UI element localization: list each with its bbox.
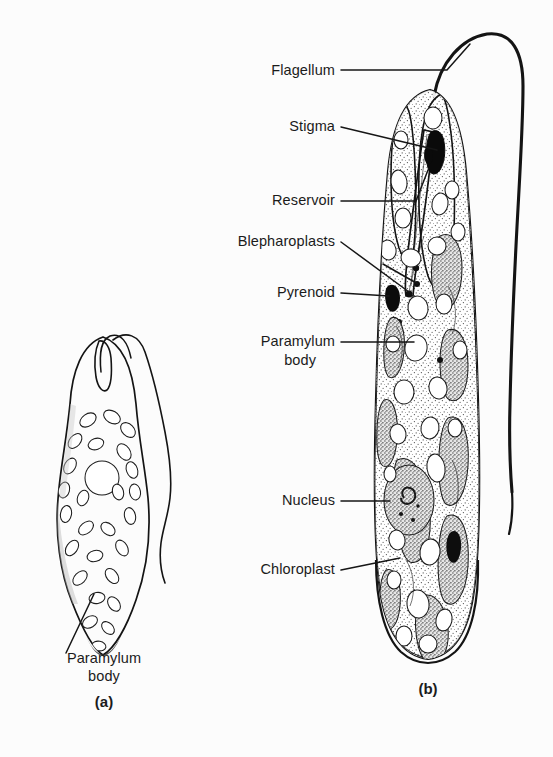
- label-stigma: Stigma: [289, 118, 336, 134]
- panel-label-b: (b): [418, 680, 437, 697]
- nuclear-granule-2: [411, 518, 415, 522]
- label-paramylum-body-a-line1: Paramylum: [67, 650, 141, 666]
- label-nucleus: Nucleus: [282, 492, 335, 508]
- label-paramylum-body-b-line1: Paramylum: [261, 333, 335, 349]
- label-pyrenoid: Pyrenoid: [277, 284, 335, 300]
- label-chloroplast: Chloroplast: [261, 561, 335, 577]
- label-reservoir: Reservoir: [272, 192, 335, 208]
- label-blepharoplasts: Blepharoplasts: [238, 233, 335, 249]
- label-paramylum-body-a-line2: body: [88, 668, 120, 684]
- nuclear-granule-1: [399, 512, 403, 516]
- granule-b-2: [437, 357, 443, 363]
- label-paramylum-body-b-line2: body: [284, 352, 316, 368]
- panel-label-a: (a): [95, 693, 113, 710]
- label-flagellum: Flagellum: [271, 62, 335, 78]
- euglena-figure: Flagellum Stigma Reservoir Blepharoplast…: [0, 0, 553, 757]
- nuclear-granule-3: [416, 504, 419, 507]
